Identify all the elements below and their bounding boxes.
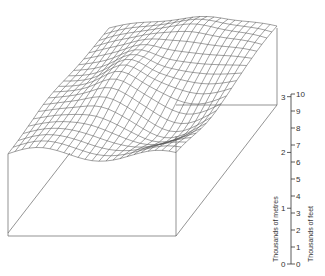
feet-tick-label: 10	[296, 90, 305, 99]
metre-tick-label: 0	[281, 260, 286, 269]
feet-tick-label: 7	[296, 141, 301, 150]
feet-tick-label: 5	[296, 175, 301, 184]
feet-tick-label: 2	[296, 226, 301, 235]
block-diagram: 0123 012345678910 Thousands of metres Th…	[0, 0, 325, 276]
metre-ticks: 0123	[281, 93, 291, 269]
feet-tick-label: 6	[296, 158, 301, 167]
metre-tick-label: 3	[281, 93, 286, 102]
feet-tick-label: 4	[296, 192, 301, 201]
metre-tick-label: 2	[281, 148, 286, 157]
feet-tick-label: 3	[296, 209, 301, 218]
metres-axis-title: Thousands of metres	[272, 196, 279, 262]
feet-ticks: 012345678910	[291, 90, 305, 269]
feet-tick-label: 8	[296, 124, 301, 133]
feet-tick-label: 1	[296, 243, 301, 252]
feet-axis-title: Thousands of feet	[307, 206, 314, 262]
metre-tick-label: 1	[281, 204, 286, 213]
feet-tick-label: 0	[296, 260, 301, 269]
feet-tick-label: 9	[296, 107, 301, 116]
elevation-scale: 0123 012345678910 Thousands of metres Th…	[272, 90, 314, 269]
terrain-mesh	[8, 17, 277, 162]
